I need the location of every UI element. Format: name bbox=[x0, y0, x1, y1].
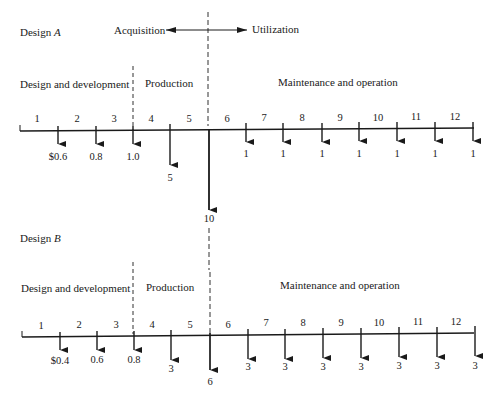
period-4: 4 bbox=[149, 319, 155, 330]
cash-flow-value: 3 bbox=[434, 360, 439, 371]
utilization-label: Utilization bbox=[252, 23, 300, 35]
period-9: 9 bbox=[338, 317, 343, 328]
cash-flow-values-b: $0.4 0.6 0.8 3 6 3 3 3 3 3 3 3 bbox=[51, 354, 478, 387]
phase-maintenance-operation-b: Maintenance and operation bbox=[280, 279, 400, 291]
time-axis-a bbox=[20, 128, 474, 131]
period-3: 3 bbox=[111, 113, 116, 124]
cash-flow-value: 0.8 bbox=[89, 151, 102, 162]
cash-flow-value: 0.8 bbox=[127, 354, 140, 365]
cash-flow-value: 3 bbox=[358, 361, 363, 372]
period-8: 8 bbox=[300, 317, 305, 328]
period-6: 6 bbox=[224, 113, 229, 124]
period-12: 12 bbox=[450, 111, 461, 122]
period-6: 6 bbox=[225, 319, 230, 330]
period-4: 4 bbox=[148, 113, 154, 124]
period-11: 11 bbox=[411, 111, 421, 122]
cash-flow-value: 1 bbox=[243, 148, 248, 159]
cash-flow-value: 6 bbox=[207, 376, 212, 387]
cash-flow-value: 1 bbox=[319, 148, 324, 159]
period-1: 1 bbox=[34, 113, 39, 124]
phase-production-a: Production bbox=[145, 77, 194, 89]
phase-production-b: Production bbox=[146, 281, 195, 293]
cash-flow-value: 10 bbox=[204, 213, 215, 224]
design-a-section: Design A Design and development Producti… bbox=[20, 26, 476, 224]
period-7: 7 bbox=[261, 112, 266, 123]
period-labels-b: 1 2 3 4 5 6 7 8 9 10 11 12 bbox=[38, 316, 461, 331]
period-3: 3 bbox=[113, 319, 118, 330]
phase-design-development-b: Design and development bbox=[21, 282, 130, 294]
cash-flow-value: 3 bbox=[282, 361, 287, 372]
period-8: 8 bbox=[299, 112, 304, 123]
period-7: 7 bbox=[263, 317, 268, 328]
acquisition-label: Acquisition bbox=[114, 24, 166, 36]
cash-flow-arrows-b bbox=[60, 326, 475, 370]
cash-flow-value: $0.4 bbox=[51, 355, 70, 366]
cash-flow-arrows-a bbox=[58, 122, 473, 210]
period-11: 11 bbox=[413, 316, 423, 327]
period-10: 10 bbox=[374, 317, 385, 328]
cash-flow-value: 0.6 bbox=[90, 354, 103, 365]
period-5: 5 bbox=[186, 113, 191, 124]
cash-flow-value: 3 bbox=[472, 360, 477, 371]
design-b-section: Design B Design and development Producti… bbox=[20, 232, 478, 387]
cash-flow-value: 5 bbox=[167, 172, 172, 183]
cash-flow-values-a: $0.6 0.8 1.0 5 10 1 1 1 1 1 1 1 bbox=[49, 148, 476, 224]
period-2: 2 bbox=[76, 319, 81, 330]
cash-flow-value: 1 bbox=[432, 148, 437, 159]
cash-flow-value: 3 bbox=[168, 363, 173, 374]
period-10: 10 bbox=[373, 112, 384, 123]
cash-flow-value: 3 bbox=[245, 361, 250, 372]
design-b-title: Design B bbox=[20, 232, 61, 244]
period-5: 5 bbox=[187, 319, 192, 330]
period-12: 12 bbox=[451, 316, 462, 327]
cash-flow-value: 1 bbox=[280, 148, 285, 159]
cash-flow-value: 1 bbox=[470, 148, 475, 159]
cash-flow-value: $0.6 bbox=[49, 151, 67, 162]
cash-flow-value: 1.0 bbox=[126, 151, 139, 162]
cash-flow-value: 1 bbox=[356, 148, 361, 159]
period-9: 9 bbox=[337, 112, 342, 123]
design-a-title: Design A bbox=[20, 26, 61, 38]
phase-design-development-a: Design and development bbox=[20, 78, 129, 90]
cash-flow-value: 3 bbox=[320, 361, 325, 372]
period-1: 1 bbox=[38, 320, 43, 331]
cash-flow-diagram: Acquisition Utilization Design A Design … bbox=[0, 0, 494, 396]
cash-flow-value: 3 bbox=[396, 360, 401, 371]
phase-maintenance-operation-a: Maintenance and operation bbox=[278, 76, 398, 88]
period-2: 2 bbox=[74, 113, 79, 124]
acquisition-utilization-arrow: Acquisition Utilization bbox=[114, 23, 300, 36]
cash-flow-value: 1 bbox=[394, 148, 399, 159]
